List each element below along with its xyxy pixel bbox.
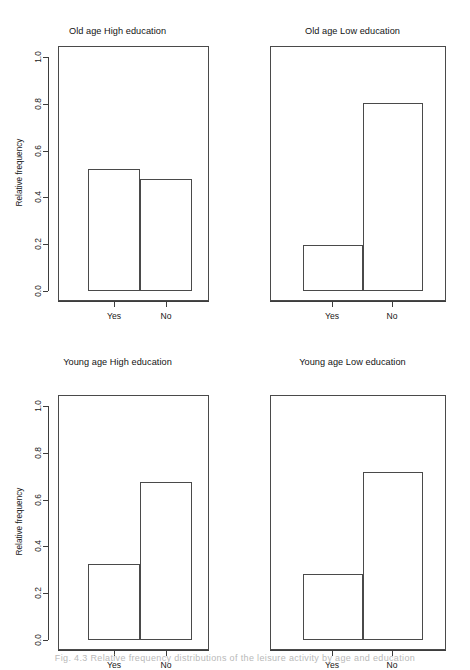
x-tick-label-yes: Yes [312,311,352,321]
y-axis-line [48,57,49,291]
panel-title: Old age Low education [235,26,470,36]
x-tick-label-no: No [372,311,412,321]
x-tick-label-no: No [146,311,186,321]
panel-old-age-high-education: Old age High education 0.0 0.2 0.4 0.6 0… [0,0,235,332]
y-tick-1 [43,244,48,245]
x-tick-no [392,302,393,307]
x-tick-no [166,302,167,307]
y-tick-label: 0.8 [33,438,43,468]
y-tick-label: 0.4 [33,531,43,561]
y-tick-4 [43,104,48,105]
plot-frame [58,395,209,650]
panel-young-age-high-education: Young age High education 0.0 0.2 0.4 0.6… [0,332,235,664]
plot-frame [270,46,446,301]
panel-title: Young age High education [0,357,235,367]
y-tick-label: 1.0 [33,42,43,72]
y-axis-label: Relative frequency [15,477,24,567]
panel-title: Young age Low education [235,357,470,367]
y-tick-label: 0.2 [33,229,43,259]
y-tick-5 [43,406,48,407]
x-tick-yes [114,302,115,307]
y-tick-label: 0.8 [33,89,43,119]
panel-title: Old age High education [0,26,235,36]
y-axis-line [48,406,49,640]
y-tick-label: 0.4 [33,182,43,212]
y-tick-2 [43,546,48,547]
y-tick-0 [43,291,48,292]
y-tick-5 [43,57,48,58]
x-tick-label-yes: Yes [94,311,134,321]
panel-old-age-low-education: Old age Low education Yes No [235,0,470,332]
x-tick-yes [332,302,333,307]
y-tick-3 [43,151,48,152]
x-axis-line [270,301,446,302]
figure-caption: Fig. 4.3 Relative frequency distribution… [0,653,470,665]
y-tick-4 [43,453,48,454]
y-tick-label: 0.6 [33,136,43,166]
plot-frame [58,46,209,301]
y-tick-label: 0.2 [33,578,43,608]
y-axis-label: Relative frequency [15,128,24,218]
x-axis-line [270,650,446,651]
y-tick-1 [43,593,48,594]
y-tick-label: 0.6 [33,485,43,515]
plot-frame [270,395,446,650]
panel-young-age-low-education: Young age Low education Yes No [235,332,470,664]
y-tick-2 [43,197,48,198]
y-tick-label: 0.0 [33,625,43,655]
y-tick-3 [43,500,48,501]
x-axis-line [58,301,209,302]
y-tick-label: 0.0 [33,276,43,306]
y-tick-0 [43,640,48,641]
y-tick-label: 1.0 [33,391,43,421]
x-axis-line [58,650,209,651]
